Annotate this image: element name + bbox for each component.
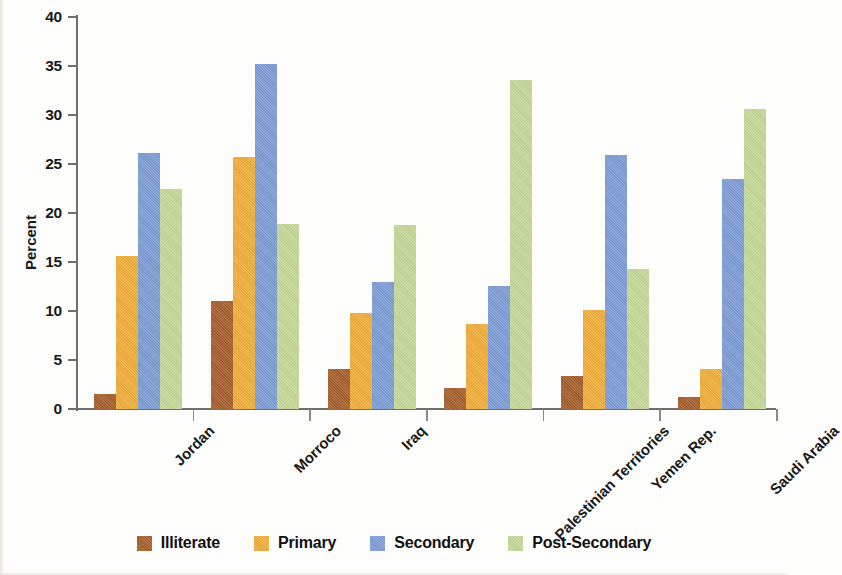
bar-illiterate bbox=[94, 394, 116, 409]
bar-group-bars bbox=[211, 17, 299, 409]
bar-group bbox=[444, 17, 532, 409]
x-axis-tick bbox=[776, 409, 778, 421]
bar-primary bbox=[700, 369, 722, 409]
legend-swatch-icon bbox=[370, 536, 385, 551]
x-axis-category-label: Iraq bbox=[398, 422, 429, 453]
bar-illiterate bbox=[561, 376, 583, 409]
legend-item[interactable]: Secondary bbox=[370, 534, 474, 552]
y-axis-tick-label: 15 bbox=[22, 253, 62, 271]
y-axis-tick-label: 0 bbox=[22, 400, 62, 418]
plot-area bbox=[76, 17, 776, 409]
bar-post-secondary bbox=[160, 189, 182, 410]
bar-post-secondary bbox=[277, 224, 299, 409]
x-axis-tick bbox=[193, 409, 195, 421]
bar-group bbox=[678, 17, 766, 409]
bar-group bbox=[561, 17, 649, 409]
page-edge-left bbox=[0, 0, 4, 575]
y-axis-tick-label: 10 bbox=[22, 302, 62, 320]
legend-swatch-icon bbox=[508, 536, 523, 551]
bar-secondary bbox=[138, 153, 160, 409]
legend-item[interactable]: Post-Secondary bbox=[508, 534, 651, 552]
chart-legend: IlliteratePrimarySecondaryPost-Secondary bbox=[0, 534, 788, 552]
y-axis-tick-label: 25 bbox=[22, 155, 62, 173]
legend-label: Secondary bbox=[394, 534, 474, 552]
legend-label: Illiterate bbox=[161, 534, 220, 552]
y-axis-tick-label: 40 bbox=[22, 8, 62, 26]
bar-primary bbox=[116, 256, 138, 409]
y-axis-tick-label: 5 bbox=[22, 351, 62, 369]
bar-illiterate bbox=[678, 397, 700, 409]
bar-secondary bbox=[722, 179, 744, 409]
y-axis-tick-label: 20 bbox=[22, 204, 62, 222]
bar-group-bars bbox=[328, 17, 416, 409]
bar-illiterate bbox=[328, 369, 350, 409]
legend-item[interactable]: Primary bbox=[254, 534, 336, 552]
x-axis-category-label: Morroco bbox=[290, 422, 344, 476]
bar-post-secondary bbox=[394, 225, 416, 409]
bar-secondary bbox=[605, 155, 627, 409]
x-axis-tick bbox=[659, 409, 661, 421]
bar-secondary bbox=[372, 282, 394, 409]
x-axis-tick bbox=[543, 409, 545, 421]
bar-secondary bbox=[488, 286, 510, 409]
bar-primary bbox=[233, 157, 255, 409]
bar-primary bbox=[466, 324, 488, 409]
x-axis-tick bbox=[426, 409, 428, 421]
bar-group-bars bbox=[444, 17, 532, 409]
x-axis-category-label: Saudi Arabia bbox=[766, 422, 842, 498]
bar-group-bars bbox=[678, 17, 766, 409]
legend-item[interactable]: Illiterate bbox=[137, 534, 220, 552]
x-axis-tick bbox=[309, 409, 311, 421]
legend-swatch-icon bbox=[254, 536, 269, 551]
y-axis-tick-label: 30 bbox=[22, 106, 62, 124]
bar-illiterate bbox=[444, 388, 466, 409]
bar-primary bbox=[350, 313, 372, 409]
legend-swatch-icon bbox=[137, 536, 152, 551]
bar-secondary bbox=[255, 64, 277, 409]
bar-group-bars bbox=[94, 17, 182, 409]
bar-group bbox=[328, 17, 416, 409]
legend-label: Primary bbox=[278, 534, 336, 552]
y-axis-tick-label: 35 bbox=[22, 57, 62, 75]
legend-label: Post-Secondary bbox=[532, 534, 651, 552]
x-axis-category-label: Jordan bbox=[171, 422, 218, 469]
bar-group bbox=[94, 17, 182, 409]
bar-group bbox=[211, 17, 299, 409]
bar-post-secondary bbox=[627, 269, 649, 409]
bar-illiterate bbox=[211, 301, 233, 409]
bar-group-bars bbox=[561, 17, 649, 409]
bar-post-secondary bbox=[510, 80, 532, 409]
bar-post-secondary bbox=[744, 109, 766, 409]
bar-primary bbox=[583, 310, 605, 409]
